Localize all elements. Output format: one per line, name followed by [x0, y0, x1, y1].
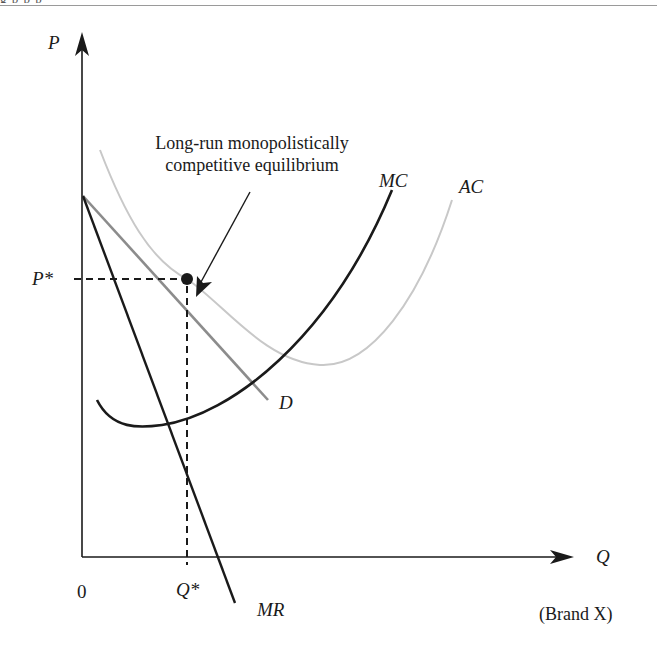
annotation-line-2: competitive equilibrium [131, 154, 373, 176]
mc-label: MC [379, 170, 408, 192]
x-axis-label: Q [596, 546, 610, 568]
demand-curve [83, 196, 268, 400]
origin-label: 0 [77, 581, 87, 603]
quantity-star-label: Q* [176, 579, 199, 601]
annotation-arrow [196, 192, 250, 297]
y-axis-label: P [48, 32, 60, 54]
price-star-label: P* [32, 268, 53, 290]
x-axis [82, 550, 574, 564]
equilibrium-annotation: Long-run monopolistically competitive eq… [131, 132, 373, 176]
marginal-cost-curve [97, 190, 392, 427]
economics-diagram [0, 0, 657, 651]
equilibrium-point [181, 273, 193, 285]
demand-label: D [279, 392, 293, 414]
brand-label: (Brand X) [539, 604, 612, 625]
y-axis [75, 32, 89, 557]
mr-label: MR [257, 599, 284, 621]
annotation-line-1: Long-run monopolistically [131, 132, 373, 154]
ac-label: AC [459, 176, 483, 198]
